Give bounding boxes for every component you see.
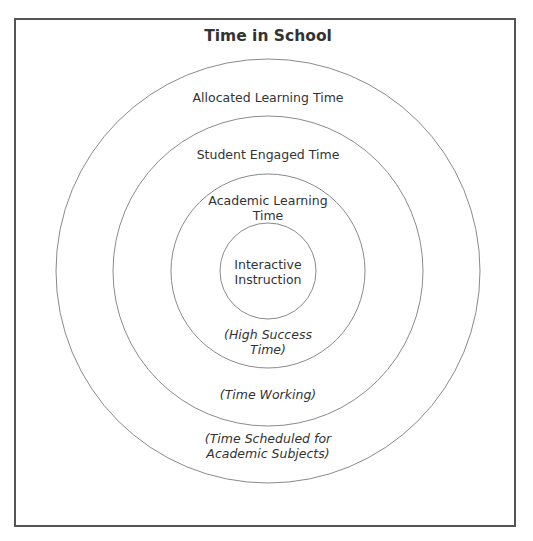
label-academic-line2: Time: [208, 208, 327, 223]
label-interactive-line2: Instruction: [234, 272, 301, 287]
sublabel-allocated: (Time Scheduled for Academic Subjects): [205, 431, 331, 461]
label-interactive-line1: Interactive: [234, 257, 301, 272]
sublabel-engaged: (Time Working): [220, 387, 316, 402]
sublabel-allocated-line1: (Time Scheduled for: [205, 431, 331, 446]
label-allocated: Allocated Learning Time: [192, 90, 343, 105]
label-engaged: Student Engaged Time: [197, 147, 340, 162]
sublabel-academic-line2: Time): [224, 342, 312, 357]
diagram-title: Time in School: [204, 27, 332, 45]
label-academic-line1: Academic Learning: [208, 193, 327, 208]
sublabel-academic: (High Success Time): [224, 327, 312, 357]
label-academic: Academic Learning Time: [208, 193, 327, 223]
label-interactive: Interactive Instruction: [234, 257, 301, 287]
sublabel-allocated-line2: Academic Subjects): [205, 446, 331, 461]
sublabel-academic-line1: (High Success: [224, 327, 312, 342]
